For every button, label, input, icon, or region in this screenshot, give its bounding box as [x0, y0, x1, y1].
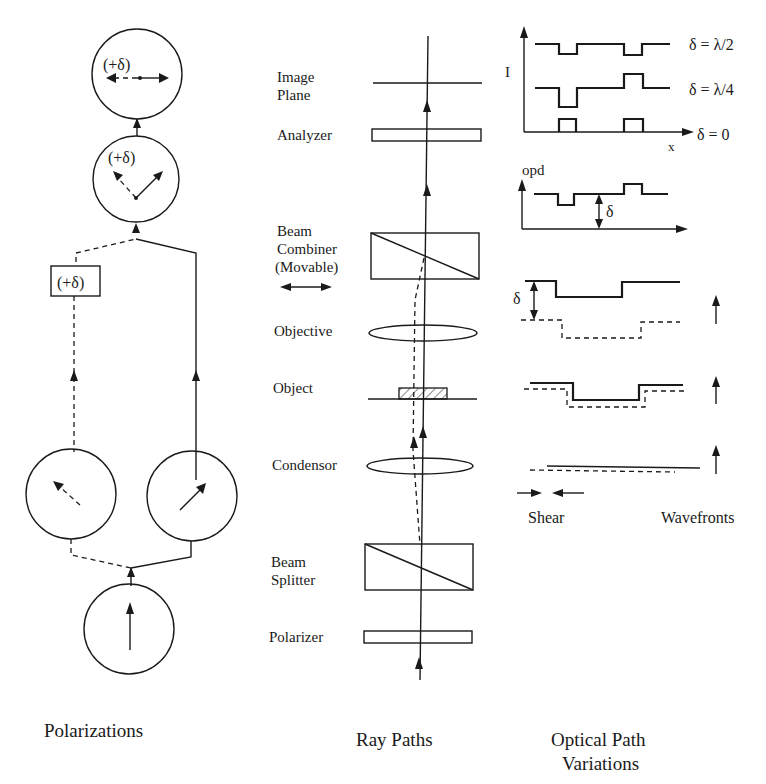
- objective-label: Objective: [274, 323, 333, 339]
- arrow-up-icon: [192, 370, 200, 381]
- axis-arrow-icon: [676, 225, 688, 233]
- arrow-upleft-icon: [113, 171, 123, 181]
- wavefronts-label: Wavefronts: [661, 509, 734, 526]
- arrow-right-icon: [159, 73, 169, 83]
- wavefront-pair-1: δ: [513, 281, 720, 338]
- wavefront-arrow-icon: [712, 445, 720, 456]
- extraordinary-ray-polarization-circle: [147, 451, 237, 541]
- beam-splitter-label-2: Splitter: [271, 572, 315, 588]
- arrow-left-icon: [552, 489, 563, 497]
- curve-label-quarter-wave: δ = λ/4: [689, 81, 734, 98]
- arrow-up-icon: [415, 657, 423, 669]
- arrow-up-icon: [127, 567, 135, 577]
- optical-axis: [420, 36, 428, 680]
- condensor-label: Condensor: [272, 457, 337, 473]
- arrow-up-icon: [410, 436, 418, 448]
- top-circle-delta-label: (+δ): [103, 56, 130, 74]
- axis-arrow-icon: [682, 128, 694, 136]
- arrow-right-icon: [531, 489, 542, 497]
- condensor-lens: Condensor: [272, 457, 473, 474]
- opd-graph: opd δ: [518, 162, 688, 233]
- intensity-axis-label: I: [505, 64, 510, 80]
- beam-combiner: Beam Combiner (Movable): [275, 223, 479, 291]
- arrow-down-icon: [595, 219, 603, 229]
- curve-label-zero: δ = 0: [697, 126, 730, 143]
- wavefront-pair-3: [530, 445, 720, 474]
- axis-arrow-icon: [518, 179, 526, 191]
- delay-box: (+δ): [51, 266, 100, 296]
- arrow-down-icon: [530, 310, 538, 320]
- polarizer-label: Polarizer: [269, 629, 323, 645]
- delay-box-label: (+δ): [57, 274, 84, 292]
- polarizer: Polarizer: [269, 629, 472, 645]
- beam-splitter-label-1: Beam: [271, 554, 306, 570]
- input-polarization-circle: [84, 584, 174, 674]
- wavefront-pair-2: [524, 376, 720, 407]
- shear-indicator: Shear: [517, 489, 584, 526]
- arrow-up-icon: [419, 426, 427, 438]
- arrow-left-icon: [280, 283, 291, 291]
- wavefront-delta-label: δ: [513, 290, 521, 307]
- arrow-up-icon: [132, 223, 140, 233]
- arrow-up-icon: [126, 602, 134, 614]
- object-label: Object: [273, 380, 314, 396]
- ordinary-ray-polarization-circle: [26, 449, 116, 539]
- ray-paths-panel: Image Plane Analyzer Beam Combiner (Mova…: [269, 36, 482, 750]
- objective-lens: Objective: [274, 323, 477, 341]
- axis-arrow-icon: [520, 26, 528, 38]
- curve-label-half-wave: δ = λ/2: [689, 36, 734, 53]
- shear-label: Shear: [528, 509, 565, 526]
- arrow-up-icon: [595, 194, 603, 204]
- analyzer-label: Analyzer: [277, 127, 332, 143]
- object-specimen: Object: [273, 380, 477, 399]
- image-plane: Image Plane: [277, 69, 482, 103]
- arrow-upleft-icon: [53, 481, 64, 491]
- ray-paths-title: Ray Paths: [356, 729, 433, 750]
- wavefront-arrow-icon: [712, 376, 720, 387]
- output-polarization-circle: (+δ): [92, 29, 182, 119]
- x-axis-label: x: [668, 139, 675, 154]
- beam-splitter: Beam Splitter: [271, 544, 473, 590]
- beam-combiner-label-2: Combiner: [277, 241, 337, 257]
- arrow-up-icon: [70, 370, 78, 381]
- polarizations-panel: (+δ) (+δ) (+δ): [26, 29, 237, 741]
- dic-microscope-diagram: (+δ) (+δ) (+δ): [0, 0, 766, 784]
- arrow-up-icon: [530, 281, 538, 291]
- opd-axis-label: opd: [522, 162, 545, 178]
- arrow-up-icon: [423, 184, 431, 196]
- beam-combiner-label-1: Beam: [277, 223, 312, 239]
- polarizations-title: Polarizations: [44, 720, 143, 741]
- arrow-left-icon: [106, 73, 116, 83]
- arrow-right-icon: [321, 283, 332, 291]
- beam-combiner-label-3: (Movable): [275, 259, 338, 276]
- opd-delta-label: δ: [606, 203, 614, 220]
- optical-path-title-2: Variations: [562, 753, 639, 774]
- wavefront-arrow-icon: [712, 295, 720, 306]
- middle-circle-delta-label: (+δ): [108, 149, 135, 167]
- combined-polarization-circle: (+δ): [93, 136, 179, 222]
- intensity-graph: I x δ = λ/2 δ = λ/4 δ = 0: [505, 26, 734, 154]
- optical-path-panel: I x δ = λ/2 δ = λ/4 δ = 0 opd δ: [505, 26, 734, 774]
- image-plane-label-2: Plane: [277, 87, 311, 103]
- arrow-up-icon: [423, 100, 431, 112]
- analyzer: Analyzer: [277, 127, 481, 143]
- optical-path-title-1: Optical Path: [551, 729, 646, 750]
- image-plane-label-1: Image: [277, 69, 315, 85]
